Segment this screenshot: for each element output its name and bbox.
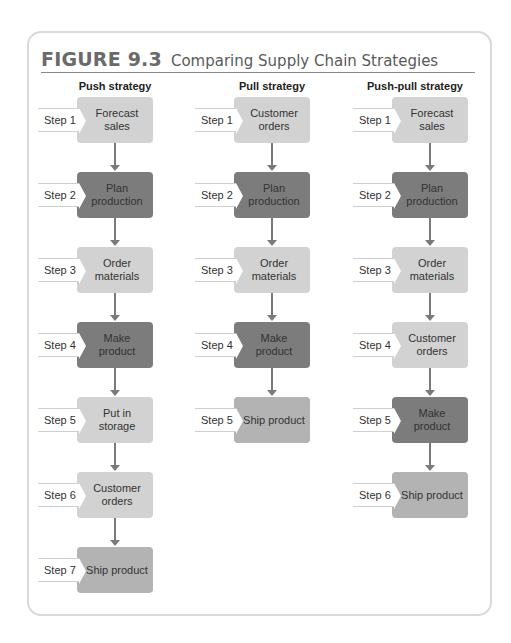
- step-label: Step 1: [195, 108, 236, 132]
- down-arrow-icon: [429, 293, 431, 316]
- step-box: Make product: [234, 322, 310, 368]
- step-label: Step 7: [38, 558, 79, 582]
- step-text: Ship product: [239, 414, 305, 427]
- down-arrow-icon: [429, 143, 431, 166]
- step-text: Make product: [397, 407, 463, 433]
- down-arrow-icon: [114, 293, 116, 316]
- step-label: Step 5: [195, 408, 236, 432]
- down-arrow-icon: [114, 518, 116, 541]
- step-label: Step 2: [38, 183, 79, 207]
- title-divider: [41, 72, 475, 73]
- step-box: Forecast sales: [77, 97, 153, 143]
- step-box: Plan production: [392, 172, 468, 218]
- step-text: Plan production: [239, 182, 305, 208]
- down-arrow-icon: [114, 143, 116, 166]
- step-box: Forecast sales: [392, 97, 468, 143]
- down-arrow-icon: [114, 368, 116, 391]
- step-text: Make product: [82, 332, 148, 358]
- step-box: Ship product: [392, 472, 468, 518]
- step-label: Step 2: [195, 183, 236, 207]
- step-label: Step 6: [353, 483, 394, 507]
- step-box: Customer orders: [392, 322, 468, 368]
- step-text: Order materials: [239, 257, 305, 283]
- step-text: Customer orders: [397, 332, 463, 358]
- down-arrow-icon: [429, 443, 431, 466]
- step-box: Order materials: [392, 247, 468, 293]
- step-label: Step 2: [353, 183, 394, 207]
- column-heading-pull-strategy: Pull strategy: [212, 80, 332, 92]
- step-box: Plan production: [234, 172, 310, 218]
- down-arrow-icon: [271, 218, 273, 241]
- step-text: Plan production: [82, 182, 148, 208]
- step-label: Step 5: [38, 408, 79, 432]
- step-text: Forecast sales: [397, 107, 463, 133]
- step-text: Ship product: [397, 489, 463, 502]
- step-text: Order materials: [397, 257, 463, 283]
- step-box: Order materials: [234, 247, 310, 293]
- figure-header: FIGURE 9.3 Comparing Supply Chain Strate…: [41, 48, 475, 72]
- step-label: Step 3: [195, 258, 236, 282]
- step-text: Customer orders: [82, 482, 148, 508]
- down-arrow-icon: [271, 293, 273, 316]
- step-label: Step 4: [195, 333, 236, 357]
- step-label: Step 3: [353, 258, 394, 282]
- step-box: Ship product: [234, 397, 310, 443]
- down-arrow-icon: [114, 218, 116, 241]
- step-box: Customer orders: [77, 472, 153, 518]
- step-box: Customer orders: [234, 97, 310, 143]
- figure-number: FIGURE 9.3: [41, 48, 162, 70]
- down-arrow-icon: [429, 368, 431, 391]
- step-label: Step 1: [353, 108, 394, 132]
- down-arrow-icon: [271, 368, 273, 391]
- down-arrow-icon: [429, 218, 431, 241]
- step-text: Ship product: [82, 564, 148, 577]
- step-box: Order materials: [77, 247, 153, 293]
- step-text: Put in storage: [82, 407, 148, 433]
- step-box: Plan production: [77, 172, 153, 218]
- step-label: Step 1: [38, 108, 79, 132]
- step-label: Step 4: [38, 333, 79, 357]
- step-box: Make product: [392, 397, 468, 443]
- column-heading-push-pull-strategy: Push-pull strategy: [355, 80, 475, 92]
- down-arrow-icon: [114, 443, 116, 466]
- step-label: Step 3: [38, 258, 79, 282]
- step-label: Step 5: [353, 408, 394, 432]
- column-heading-push-strategy: Push strategy: [55, 80, 175, 92]
- step-box: Ship product: [77, 547, 153, 593]
- figure-title: Comparing Supply Chain Strategies: [171, 52, 438, 70]
- step-text: Order materials: [82, 257, 148, 283]
- step-label: Step 4: [353, 333, 394, 357]
- step-text: Forecast sales: [82, 107, 148, 133]
- down-arrow-icon: [271, 143, 273, 166]
- step-text: Make product: [239, 332, 305, 358]
- step-box: Put in storage: [77, 397, 153, 443]
- step-box: Make product: [77, 322, 153, 368]
- step-text: Plan production: [397, 182, 463, 208]
- step-text: Customer orders: [239, 107, 305, 133]
- step-label: Step 6: [38, 483, 79, 507]
